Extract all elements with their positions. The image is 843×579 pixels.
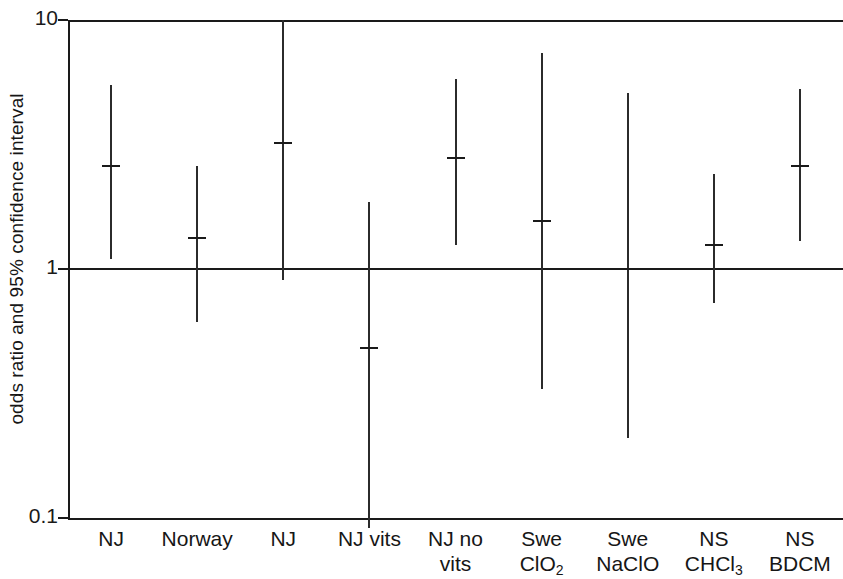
odds-ratio-marker <box>619 268 637 270</box>
odds-ratio-marker <box>188 237 206 239</box>
y-axis-spine <box>68 20 70 520</box>
confidence-interval-line <box>627 93 629 438</box>
confidence-interval-line <box>110 85 112 259</box>
x-tick-label: NJ vits <box>338 526 401 551</box>
y-tick-label: 0.1 <box>29 504 58 528</box>
confidence-interval-line <box>282 20 284 280</box>
odds-ratio-marker <box>791 165 809 167</box>
x-axis-line <box>68 518 843 520</box>
x-tick-label: NSBDCM <box>769 526 831 576</box>
x-tick-label: NJ <box>98 526 124 551</box>
odds-ratio-marker <box>274 142 292 144</box>
y-tick-label: 10 <box>35 6 58 30</box>
confidence-interval-line <box>455 79 457 245</box>
confidence-interval-line <box>196 166 198 323</box>
odds-ratio-marker <box>102 165 120 167</box>
y-tick-mark <box>58 517 68 519</box>
x-tick-label: NSCHCl3 <box>685 526 743 579</box>
odds-ratio-marker <box>533 220 551 222</box>
odds-ratio-marker <box>447 157 465 159</box>
y-tick-mark <box>58 268 68 270</box>
x-tick-label: NJ <box>270 526 296 551</box>
y-tick-label: 1 <box>46 255 58 279</box>
reference-line-at-1 <box>68 268 843 270</box>
y-tick-mark <box>58 19 68 21</box>
x-tick-label: SweNaClO <box>596 526 659 576</box>
x-tick-label: Norway <box>162 526 233 551</box>
x-tick-label: NJ novits <box>428 526 483 576</box>
x-tick-label: SweClO2 <box>520 526 564 579</box>
odds-ratio-marker <box>360 347 378 349</box>
plot-top-border <box>68 20 843 22</box>
y-axis-title-text: odds ratio and 95% confidence interval <box>6 93 28 424</box>
confidence-interval-line <box>713 174 715 303</box>
odds-ratio-marker <box>705 244 723 246</box>
y-axis-title: odds ratio and 95% confidence interval <box>0 0 34 518</box>
confidence-interval-line <box>368 202 370 528</box>
